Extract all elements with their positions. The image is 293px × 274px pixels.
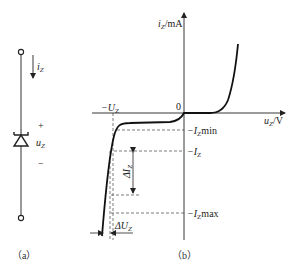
svg-text:iZ: iZ bbox=[37, 61, 44, 74]
svg-text:uZ: uZ bbox=[36, 137, 45, 150]
zener-diode-icon bbox=[14, 129, 28, 146]
delta-uz-label: ΔU bbox=[114, 220, 129, 231]
caption-b: （b） bbox=[172, 250, 197, 261]
svg-text:−IZ: −IZ bbox=[187, 146, 201, 159]
svg-text:iZ/mA: iZ/mA bbox=[158, 18, 183, 31]
svg-text:ΔIZ: ΔIZ bbox=[121, 165, 134, 179]
svg-text:−IZmin: −IZmin bbox=[187, 125, 217, 138]
zener-diode-figure: iZ + uZ − （a） ΔIZ ΔUZ iZ/mA 0 −UZ bbox=[0, 0, 293, 274]
svg-text:uZ/V: uZ/V bbox=[264, 115, 284, 128]
uz-label: −U bbox=[101, 102, 116, 113]
circuit-a: iZ + uZ − （a） bbox=[12, 49, 45, 261]
svg-text:−IZmax: −IZmax bbox=[187, 208, 219, 221]
plus-sign: + bbox=[38, 120, 44, 131]
caption-a: （a） bbox=[12, 250, 36, 261]
bottom-terminal-icon bbox=[18, 215, 23, 220]
top-terminal-icon bbox=[18, 49, 23, 54]
origin-label: 0 bbox=[176, 101, 181, 112]
svg-text:ΔUZ: ΔUZ bbox=[114, 220, 132, 233]
minus-sign: − bbox=[38, 158, 44, 169]
chart-b: ΔIZ ΔUZ iZ/mA 0 −UZ uZ/V −IZmin −IZ −IZm… bbox=[90, 13, 285, 261]
